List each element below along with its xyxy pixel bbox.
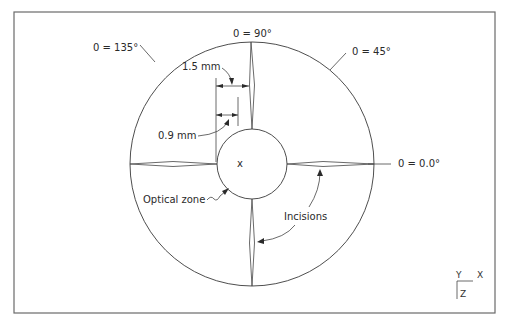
arrowhead xyxy=(216,113,222,117)
label-incisions: Incisions xyxy=(284,211,327,222)
arrowhead xyxy=(224,119,229,126)
label-dim-1-5mm: 1.5 mm xyxy=(182,61,221,72)
arrowhead xyxy=(229,78,234,85)
axis-label-x: X xyxy=(477,270,483,280)
incision-top xyxy=(250,42,255,129)
incision-right xyxy=(287,162,374,167)
incision-left xyxy=(130,162,217,167)
label-angle-135: 0 = 135° xyxy=(93,42,138,53)
leader-incisions-bottom xyxy=(262,225,295,241)
arrowhead xyxy=(216,84,223,88)
incision-bottom xyxy=(250,199,255,286)
label-angle-0: 0 = 0.0° xyxy=(398,158,440,169)
label-angle-45: 0 = 45° xyxy=(352,46,391,57)
axis-label-y: Y xyxy=(455,270,462,280)
leader-incisions-right xyxy=(309,172,320,207)
optical-zone-circle xyxy=(217,129,287,199)
axis-label-z: Z xyxy=(460,289,466,299)
center-mark: x xyxy=(237,158,243,169)
diagram-canvas: x 0 = 90° 0 = 135° 0 = 45° 0 = 0.0° 1.5 … xyxy=(0,0,509,325)
leader-angle-45 xyxy=(330,53,346,70)
arrowhead xyxy=(242,84,249,88)
axis-triad: Y X Z xyxy=(455,270,483,299)
leader-angle-135 xyxy=(140,45,155,62)
leader-dim-0-9mm xyxy=(198,121,228,136)
label-angle-90: 0 = 90° xyxy=(233,28,272,39)
outer-circle xyxy=(130,42,374,286)
arrowhead xyxy=(232,113,238,117)
arrowhead xyxy=(257,238,264,244)
label-optical-zone: Optical zone xyxy=(143,194,205,205)
label-dim-0-9mm: 0.9 mm xyxy=(158,130,197,141)
arrowhead xyxy=(317,169,323,176)
